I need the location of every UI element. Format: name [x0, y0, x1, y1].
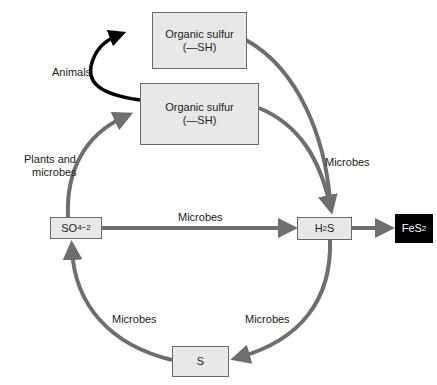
- s-to-sulfate-arrow: [72, 250, 172, 360]
- organic-mid-to-h2s-arrow: [259, 108, 330, 205]
- h2s-to-s-arrow: [240, 240, 330, 357]
- sulfur-box: S: [172, 346, 229, 377]
- fes2-base: FeS: [402, 222, 422, 235]
- animals-label: Animals: [52, 66, 91, 79]
- animals-arrow: [91, 35, 140, 100]
- h2s-box: H2S: [297, 217, 352, 240]
- h2s-to-s-label: Microbes: [245, 313, 290, 326]
- organic-top-line2: (—SH): [183, 41, 217, 54]
- sulfur-label: S: [197, 355, 204, 368]
- sulfate-box: SO4−2: [50, 217, 102, 239]
- h2s-post: S: [327, 222, 334, 235]
- organic-top-line1: Organic sulfur: [165, 28, 233, 41]
- s-to-sulfate-label: Microbes: [112, 313, 157, 326]
- organic-sulfur-top-box: Organic sulfur (—SH): [152, 12, 247, 69]
- sulfate-base: SO: [61, 222, 77, 235]
- plants-label-line2: microbes: [32, 166, 77, 179]
- organic-mid-line1: Organic sulfur: [165, 101, 233, 114]
- organic-to-h2s-label: Microbes: [325, 156, 370, 169]
- sulfate-to-h2s-label: Microbes: [178, 211, 223, 224]
- h2s-pre: H: [315, 222, 323, 235]
- organic-mid-line2: (—SH): [183, 114, 217, 127]
- plants-label-line1: Plants and: [24, 153, 76, 166]
- fes2-box: FeS2: [395, 214, 433, 243]
- organic-sulfur-mid-box: Organic sulfur (—SH): [140, 83, 259, 145]
